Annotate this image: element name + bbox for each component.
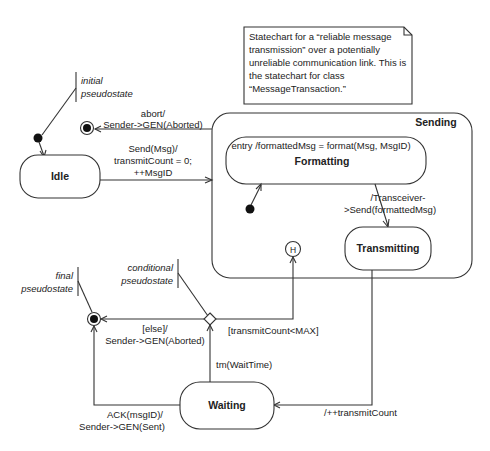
final-state-abort[interactable] [81, 122, 94, 135]
final-annotation-line-2: pseudostate [20, 283, 73, 294]
abort-transition[interactable]: abort/ Sender->GEN(Aborted) [95, 108, 212, 132]
note-line-3: unreliable communication link. This is [249, 57, 406, 68]
initial-annotation-line-1: initial [81, 75, 104, 86]
final-pseudostate-annotation: final pseudostate [20, 267, 92, 312]
else-label-line-2: Sender->GEN(Aborted) [105, 335, 205, 346]
conditional-pseudostate-annotation: conditional pseudostate [120, 259, 208, 316]
note-line-5: “MessageTransaction.” [249, 83, 346, 94]
history-pseudostate[interactable]: H [286, 242, 301, 257]
state-formatting[interactable]: entry /formattedMsg = format(Msg, MsgID)… [226, 137, 426, 184]
transceiver-send-transition[interactable]: /Transceiver- >Send(formattedMsg) [344, 184, 436, 227]
state-idle-label: Idle [51, 170, 69, 182]
final-annotation-line-1: final [56, 270, 74, 281]
timeout-label: tm(WaitTime) [216, 359, 272, 370]
sending-initial-transition[interactable] [251, 185, 261, 205]
state-sending-label: Sending [415, 116, 456, 128]
send-transition[interactable]: Send(Msg)/ transmitCount = 0; ++MsgID [100, 143, 212, 183]
history-label: H [290, 245, 296, 255]
transceiver-label-line-1: /Transceiver- [370, 192, 425, 203]
comment-note: Statechart for a “reliable message trans… [244, 27, 412, 104]
abort-label-line-2: Sender->GEN(Aborted) [103, 119, 203, 130]
note-line-4: the statechart for class [249, 70, 345, 81]
retry-transition[interactable]: [transmitCount<MAX] [216, 257, 319, 336]
sending-initial-pseudostate[interactable] [246, 205, 255, 214]
initial-pseudostate[interactable] [34, 134, 43, 143]
ack-label-line-2: Sender->GEN(Sent) [79, 421, 165, 432]
statechart-diagram: Statechart for a “reliable message trans… [0, 0, 490, 451]
transceiver-label-line-2: >Send(formattedMsg) [344, 204, 436, 215]
state-formatting-label: Formatting [295, 155, 350, 167]
conditional-annotation-line-2: pseudostate [120, 275, 173, 286]
note-line-2: transmission” over a potentially [249, 44, 380, 55]
initial-annotation-line-2: pseudostate [80, 88, 133, 99]
formatting-entry-action: entry /formattedMsg = format(Msg, MsgID) [231, 140, 410, 151]
state-waiting[interactable]: Waiting [180, 382, 274, 429]
else-label-line-1: [else]/ [142, 323, 168, 334]
state-waiting-label: Waiting [208, 399, 246, 411]
send-label-line-3: ++MsgID [134, 167, 173, 178]
else-transition[interactable]: [else]/ Sender->GEN(Aborted) [101, 316, 205, 346]
retry-guard-label: [transmitCount<MAX] [228, 325, 319, 336]
state-transmitting[interactable]: Transmitting [345, 227, 431, 270]
state-idle[interactable]: Idle [20, 155, 100, 198]
note-line-1: Statechart for a “reliable message [249, 31, 392, 42]
ack-label-line-1: ACK(msgID)/ [107, 409, 163, 420]
increment-label: /++transmitCount [324, 407, 397, 418]
conditional-pseudostate[interactable] [204, 313, 216, 325]
abort-label-line-1: abort/ [141, 108, 166, 119]
conditional-annotation-line-1: conditional [128, 262, 174, 273]
send-label-line-1: Send(Msg)/ [128, 143, 177, 154]
send-label-line-2: transmitCount = 0; [114, 155, 192, 166]
final-pseudostate[interactable] [88, 313, 101, 326]
state-transmitting-label: Transmitting [356, 242, 419, 254]
